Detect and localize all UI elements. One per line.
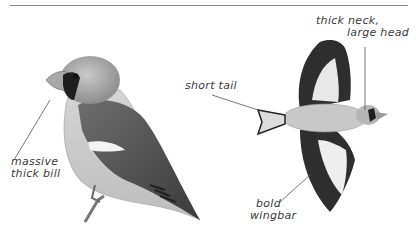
- flying-hawfinch: [258, 40, 388, 212]
- leader-wingbar: [280, 175, 310, 202]
- leader-tail: [212, 95, 258, 110]
- leader-bill: [14, 100, 50, 160]
- label-large-head: large head: [347, 27, 409, 39]
- label-wingbar: wingbar: [250, 210, 296, 222]
- label-short-tail: short tail: [185, 80, 237, 92]
- perched-hawfinch: [46, 56, 200, 222]
- label-thick-bill: thick bill: [11, 168, 60, 180]
